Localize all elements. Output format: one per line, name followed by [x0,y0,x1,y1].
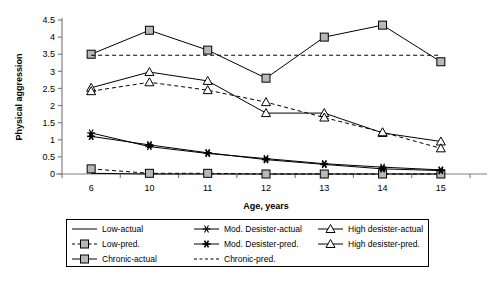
legend-label: Chronic-actual [102,253,157,265]
marker-triangle [262,98,271,106]
legend-label: Low-actual [102,223,143,235]
plot-area: 00.511.522.533.544.56101112131415Age, ye… [0,0,495,216]
y-axis-tick-label: 4.5 [42,15,55,25]
y-axis-tick-label: 1 [50,135,55,145]
marker-square [320,170,328,178]
legend-entry[interactable]: High desister-actual [317,221,434,236]
marker-asterisk [262,156,270,163]
marker-asterisk [203,240,211,247]
legend-entry[interactable]: Low-pred. [71,236,193,251]
legend-entry[interactable]: Low-actual [71,221,193,236]
y-axis-tick-label: 2 [50,101,55,111]
marker-triangle [145,68,154,76]
x-axis-tick-label: 15 [436,183,446,193]
legend-entry[interactable]: Mod. Desister-actual [193,221,317,236]
y-axis-tick-label: 0.5 [42,152,55,162]
legend-swatch-none-icon [71,223,98,235]
y-axis-tick-label: 3.5 [42,49,55,59]
y-axis-title: Physical aggression [14,53,24,140]
chart-legend: Low-actualMod. Desister-actualHigh desis… [66,219,429,267]
series-3 [87,129,445,173]
legend-label: Low-pred. [102,238,140,250]
legend-swatch-none-icon [193,253,220,265]
y-axis-tick-label: 2.5 [42,84,55,94]
legend-swatch-square-icon [71,253,98,265]
legend-entry[interactable]: Chronic-pred. [193,251,317,266]
marker-square [204,169,212,177]
marker-square [87,50,95,58]
legend-spacer [317,251,434,266]
marker-square [262,74,270,82]
legend-entry[interactable]: Chronic-actual [71,251,193,266]
y-axis-tick-label: 4 [50,32,55,42]
series-2 [87,21,445,82]
y-axis-tick-label: 0 [50,169,55,179]
series-line [91,25,441,78]
legend-entry[interactable]: High desister-pred. [317,236,434,251]
x-axis-title: Age, years [243,201,289,211]
marker-square [437,58,445,66]
y-axis-tick-label: 3 [50,67,55,77]
series-1 [87,165,445,178]
legend-label: Chronic-pred. [224,253,276,265]
x-axis-tick-label: 11 [203,183,212,193]
legend-grid: Low-actualMod. Desister-actualHigh desis… [67,220,428,266]
marker-asterisk [203,225,211,232]
x-axis-tick-label: 6 [89,183,94,193]
marker-triangle [145,78,154,86]
marker-square [81,255,89,263]
marker-square [145,169,153,177]
series-line [91,136,441,170]
legend-swatch-square-icon [71,238,98,250]
marker-square [379,21,387,29]
marker-square [262,170,270,178]
x-axis-tick-label: 13 [319,183,329,193]
marker-square [87,165,95,173]
legend-label: Mod. Desister-actual [224,223,302,235]
x-axis-tick-label: 10 [144,183,154,193]
x-axis-tick-label: 12 [261,183,271,193]
marker-square [145,26,153,34]
marker-square [320,33,328,41]
legend-entry[interactable]: Mod. Desister-pred. [193,236,317,251]
marker-square [81,240,89,248]
legend-swatch-asterisk-icon [193,223,220,235]
marker-square [204,46,212,54]
legend-swatch-triangle-icon [317,223,344,235]
x-axis-tick-label: 14 [378,183,388,193]
y-axis-tick-label: 1.5 [42,118,55,128]
marker-asterisk [204,149,212,156]
series-line [91,133,441,170]
marker-square [379,170,387,178]
marker-asterisk [320,161,328,168]
chart-figure: 00.511.522.533.544.56101112131415Age, ye… [0,0,495,284]
legend-swatch-asterisk-filled-icon [193,238,220,250]
legend-label: High desister-actual [348,223,423,235]
legend-label: High desister-pred. [348,238,420,250]
legend-swatch-triangle-icon [317,238,344,250]
line-chart-svg: 00.511.522.533.544.56101112131415Age, ye… [0,0,495,216]
legend-label: Mod. Desister-pred. [224,238,299,250]
